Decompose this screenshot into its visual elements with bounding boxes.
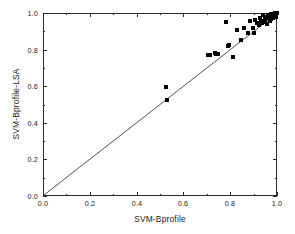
x-minor-tick-top <box>207 13 208 15</box>
y-major-tick <box>43 13 47 14</box>
x-minor-tick-top <box>66 13 67 15</box>
x-tick-label: 1.0 <box>272 199 283 208</box>
x-tick-label: 0.0 <box>38 199 49 208</box>
data-point <box>224 20 228 24</box>
data-point <box>239 38 243 42</box>
x-major-tick-top <box>137 13 138 17</box>
x-minor-tick-top <box>254 13 255 15</box>
y-minor-tick-right <box>275 178 277 179</box>
y-major-tick <box>43 50 47 51</box>
x-axis-title: SVM-Bprofile <box>43 214 277 224</box>
data-point <box>216 52 220 56</box>
x-tick-label: 0.2 <box>85 199 96 208</box>
y-minor-tick-right <box>275 141 277 142</box>
y-minor-tick <box>43 68 45 69</box>
x-minor-tick <box>66 194 67 196</box>
x-tick-label: 0.4 <box>132 199 143 208</box>
y-axis-title: SVM-Bprofile-LSA <box>11 33 21 104</box>
x-major-tick <box>183 192 184 196</box>
y-major-tick <box>43 159 47 160</box>
y-minor-tick <box>43 31 45 32</box>
y-minor-tick-right <box>275 105 277 106</box>
x-major-tick-top <box>230 13 231 17</box>
data-point <box>251 26 255 30</box>
y-minor-tick <box>43 141 45 142</box>
data-point <box>242 26 246 30</box>
y-minor-tick-right <box>275 31 277 32</box>
y-major-tick <box>43 196 47 197</box>
y-major-tick <box>43 86 47 87</box>
x-major-tick <box>277 192 278 196</box>
data-point <box>208 53 212 57</box>
y-major-tick-right <box>273 86 277 87</box>
x-major-tick <box>90 192 91 196</box>
x-tick-label: 0.6 <box>178 199 189 208</box>
data-point <box>248 19 252 23</box>
y-major-tick-right <box>273 196 277 197</box>
y-minor-tick-right <box>275 68 277 69</box>
data-point <box>164 85 168 89</box>
x-major-tick <box>230 192 231 196</box>
x-minor-tick <box>113 194 114 196</box>
x-major-tick-top <box>90 13 91 17</box>
y-minor-tick <box>43 178 45 179</box>
data-point <box>165 98 169 102</box>
data-point <box>275 11 279 15</box>
data-point <box>227 43 231 47</box>
x-minor-tick <box>254 194 255 196</box>
y-minor-tick <box>43 105 45 106</box>
x-major-tick-top <box>183 13 184 17</box>
x-major-tick <box>137 192 138 196</box>
data-point <box>252 31 256 35</box>
y-major-tick-right <box>273 159 277 160</box>
x-minor-tick <box>207 194 208 196</box>
y-major-tick <box>43 123 47 124</box>
y-tick-label: 0.2 <box>16 155 38 164</box>
y-major-tick-right <box>273 123 277 124</box>
data-point <box>231 55 235 59</box>
scatter-plot-figure: 0.00.20.40.60.81.0 0.00.20.40.60.81.0 SV… <box>0 0 295 234</box>
y-tick-label: 0.0 <box>16 192 38 201</box>
x-minor-tick-top <box>160 13 161 15</box>
y-axis-title-text: SVM-Bprofile-LSA <box>11 68 21 139</box>
x-minor-tick-top <box>113 13 114 15</box>
x-tick-label: 0.8 <box>225 199 236 208</box>
x-minor-tick <box>160 194 161 196</box>
data-point <box>246 31 250 35</box>
y-major-tick-right <box>273 50 277 51</box>
data-point <box>235 28 239 32</box>
y-tick-label: 1.0 <box>16 9 38 18</box>
